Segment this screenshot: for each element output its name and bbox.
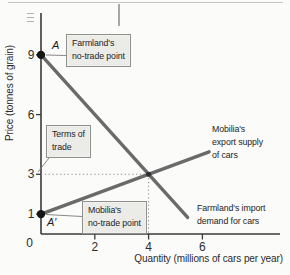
farmland-no-trade-box: Farmland's no-trade point: [66, 34, 131, 67]
x-axis-title: Quantity (millions of cars per year): [134, 253, 283, 265]
point-a-label: A: [52, 39, 59, 51]
mobilia-no-trade-box: Mobilia's no-trade point: [82, 201, 147, 234]
y-ticks: 13690: [26, 48, 41, 250]
equilibrium-dot: [146, 172, 151, 177]
tick-label: 3: [28, 167, 35, 181]
farmland-box-leader-line: [46, 55, 66, 56]
tick-label: 6: [28, 108, 35, 122]
tick-label: 1: [28, 207, 35, 221]
x-ticks: 246: [91, 234, 206, 254]
tick-label: 9: [28, 48, 35, 62]
y-axis-title: Price (tonnes of grain): [4, 14, 16, 172]
export-supply-label: Mobilia's export supply of cars: [212, 123, 263, 162]
tick-label: 0: [26, 236, 33, 250]
terms-of-trade-box: Terms of trade: [46, 125, 91, 158]
point-a-prime-label: A′: [47, 216, 56, 228]
point-a-dot: [37, 51, 45, 59]
tick-label: 6: [199, 240, 206, 254]
point-a-prime-dot: [37, 210, 45, 218]
tick-label: 2: [91, 240, 98, 254]
trade-chart-figure: 13690 246 Price (tonnes of grain) Quanti…: [0, 0, 290, 275]
tick-label: 4: [145, 240, 152, 254]
terms-of-trade-leader-line: [38, 158, 49, 172]
import-demand-label: Farmland's import demand for cars: [197, 202, 265, 228]
